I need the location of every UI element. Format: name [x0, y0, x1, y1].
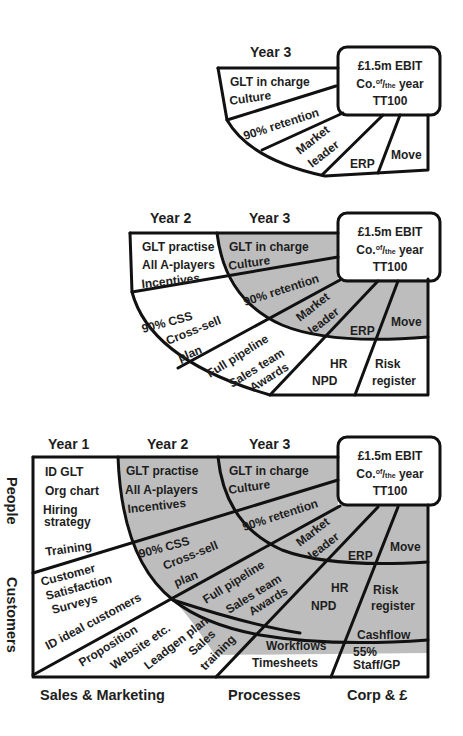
- cell-text: Move: [391, 315, 422, 329]
- cell-text: All A-players: [125, 483, 198, 497]
- cell-text: HR: [330, 357, 348, 371]
- cell-text: GLT in charge: [230, 75, 310, 89]
- header-year2: Year 2: [147, 436, 188, 452]
- cell-text: Culture: [228, 88, 272, 108]
- cell-text: Timesheets: [252, 656, 318, 670]
- goal-line-ebit: £1.5m EBIT: [358, 225, 423, 239]
- cell-text: HR: [331, 581, 349, 595]
- goal-line-company: Co.of/the year: [356, 243, 424, 257]
- cell-text: Move: [391, 148, 422, 162]
- cell-text: NPD: [311, 599, 337, 613]
- cell-text: Risk: [375, 357, 401, 371]
- col-label-sales-marketing: Sales & Marketing: [40, 687, 165, 703]
- header-year2: Year 2: [150, 210, 191, 226]
- cell-text: Staff/GP: [353, 658, 400, 672]
- cell-text: Risk: [373, 583, 399, 597]
- divider: [378, 115, 400, 173]
- panel-year1-3: Year 1 Year 2 Year 3 £1.5m EBIT Co.of/th…: [4, 436, 440, 703]
- goal-line-company: Co.of/the year: [356, 77, 424, 91]
- cell-text: ERP: [348, 549, 373, 563]
- cell-text: Workflows: [266, 639, 327, 653]
- cell-text: Move: [390, 540, 421, 554]
- cell-text: GLT practise: [142, 240, 215, 254]
- cell-text: 55%: [353, 645, 377, 659]
- col-label-processes: Processes: [228, 687, 301, 703]
- header-year3: Year 3: [250, 44, 291, 60]
- cell-text: ID GLT: [45, 465, 84, 479]
- goal-line-tt100: TT100: [373, 94, 408, 108]
- goal-line-ebit: £1.5m EBIT: [358, 449, 423, 463]
- cell-text: ERP: [350, 157, 375, 171]
- cell-text: register: [372, 374, 416, 388]
- panel-year3: Year 3 £1.5m EBIT Co.of/the year TT100 G…: [218, 44, 440, 176]
- header-year1: Year 1: [48, 436, 89, 452]
- cell-text: strategy: [44, 515, 91, 529]
- cell-text: Org chart: [45, 484, 99, 498]
- cell-text: ERP: [350, 324, 375, 338]
- cell-text: GLT in charge: [229, 464, 309, 478]
- row-label-people: People: [4, 477, 20, 525]
- goal-line-tt100: TT100: [373, 484, 408, 498]
- strategy-diagram: Year 3 £1.5m EBIT Co.of/the year TT100 G…: [0, 0, 463, 736]
- cell-text: All A-players: [142, 258, 215, 272]
- goal-line-ebit: £1.5m EBIT: [358, 59, 423, 73]
- cell-text: Incentives: [141, 271, 201, 291]
- cell-text: GLT in charge: [229, 240, 309, 254]
- cell-text: NPD: [312, 374, 338, 388]
- cell-text: Cashflow: [357, 628, 411, 642]
- header-year3: Year 3: [249, 210, 290, 226]
- goal-line-tt100: TT100: [373, 260, 408, 274]
- header-year3: Year 3: [249, 436, 290, 452]
- goal-line-company: Co.of/the year: [356, 467, 424, 481]
- panel-year2-3: Year 2 Year 3 £1.5m EBIT Co.of/the year …: [130, 210, 440, 395]
- row-label-customers: Customers: [4, 577, 20, 653]
- col-label-corp: Corp & £: [347, 687, 407, 703]
- cell-text: register: [371, 599, 415, 613]
- cell-text: GLT practise: [126, 464, 199, 478]
